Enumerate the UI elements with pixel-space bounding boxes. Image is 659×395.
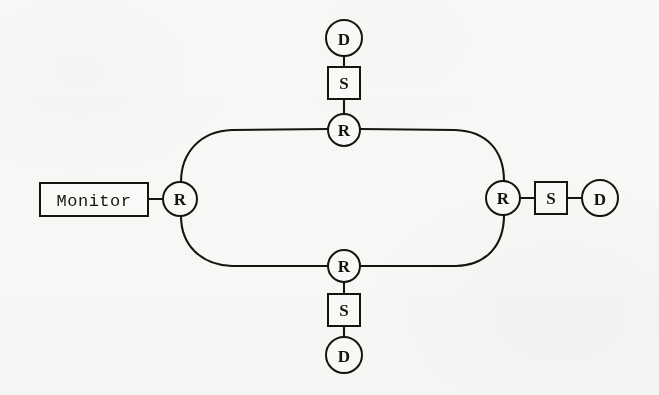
r-top-label: R: [338, 121, 351, 140]
node-d-right[interactable]: D: [582, 180, 618, 216]
r-left-label: R: [174, 190, 187, 209]
s-bottom-label: S: [339, 301, 348, 320]
d-top-label: D: [338, 30, 350, 49]
d-bottom-label: D: [338, 347, 350, 366]
node-d-bottom[interactable]: D: [326, 337, 362, 373]
node-r-left[interactable]: R: [163, 182, 197, 216]
diagram-page: Monitor R D S R R S D: [0, 0, 659, 395]
node-s-top[interactable]: S: [328, 67, 360, 99]
node-d-top[interactable]: D: [326, 20, 362, 56]
node-r-top[interactable]: R: [328, 114, 360, 146]
s-top-label: S: [339, 74, 348, 93]
r-bottom-label: R: [338, 257, 351, 276]
ring-segment-lower-right: [360, 215, 504, 266]
r-right-label: R: [497, 189, 510, 208]
s-right-label: S: [546, 189, 555, 208]
node-s-right[interactable]: S: [535, 182, 567, 214]
ring-network-diagram: Monitor R D S R R S D: [0, 0, 659, 395]
node-r-bottom[interactable]: R: [328, 250, 360, 282]
node-r-right[interactable]: R: [486, 181, 520, 215]
ring-segment-upper-right: [360, 129, 504, 181]
ring-segment-lower-left: [181, 216, 328, 266]
node-s-bottom[interactable]: S: [328, 294, 360, 326]
ring-segment-upper-left: [181, 129, 328, 182]
d-right-label: D: [594, 190, 606, 209]
monitor-node[interactable]: Monitor: [40, 183, 148, 216]
ring-loop-group: [181, 129, 504, 266]
monitor-label: Monitor: [57, 192, 132, 211]
